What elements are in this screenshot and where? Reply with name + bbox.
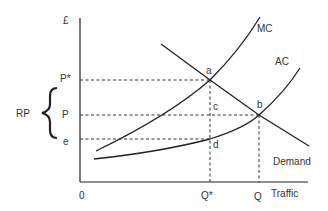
point-d-label: d [213, 140, 219, 150]
ac-curve [94, 68, 300, 159]
p-label: P [62, 110, 69, 120]
demand-label: Demand [273, 157, 311, 167]
q-label: Q [254, 192, 262, 202]
y-axis-label: £ [63, 16, 69, 26]
mc-curve [96, 17, 260, 151]
origin-label: 0 [79, 191, 85, 201]
e-label: e [63, 137, 69, 147]
point-c-label: c [213, 102, 218, 112]
rp-brace [42, 88, 57, 138]
mc-label: MC [257, 24, 273, 34]
point-a-label: a [206, 66, 212, 76]
point-b-label: b [257, 100, 263, 110]
rp-label: RP [16, 109, 30, 119]
p-star-label: P* [60, 74, 71, 84]
q-star-label: Q* [201, 191, 213, 201]
economics-diagram [0, 0, 328, 211]
ac-label: AC [275, 57, 289, 67]
x-axis-label: Traffic [271, 189, 298, 199]
